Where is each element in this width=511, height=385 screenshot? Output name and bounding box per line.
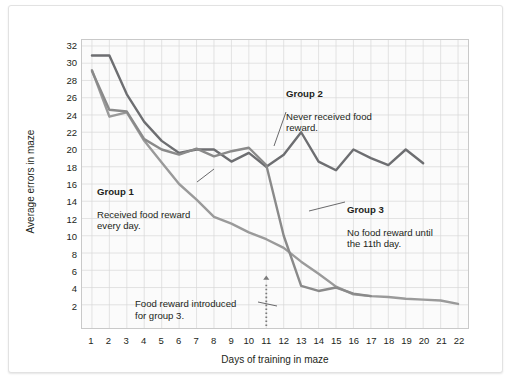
annotation-group-3-body: No food reward until the 11th day. xyxy=(347,227,433,250)
annotation-group-2-body: Never received food reward. xyxy=(286,111,372,134)
y-tick-24: 24 xyxy=(55,110,77,119)
y-axis-tick-labels: 2468101214161820222426283032 xyxy=(49,39,77,329)
y-axis-title: Average errors in maze xyxy=(25,82,36,282)
annotation-group-3-heading: Group 3 xyxy=(347,204,465,216)
x-axis-tick-labels: 12345678910111213141516171819202122 xyxy=(81,335,469,349)
y-tick-6: 6 xyxy=(55,266,77,275)
annotation-group-1-body: Received food reward every day. xyxy=(97,209,190,232)
y-tick-32: 32 xyxy=(55,41,77,50)
x-tick-22: 22 xyxy=(449,335,469,346)
y-tick-18: 18 xyxy=(55,162,77,171)
figure-root: Average errors in maze 24681012141618202… xyxy=(0,0,511,385)
y-tick-14: 14 xyxy=(55,197,77,206)
annotation-group-1-heading: Group 1 xyxy=(97,186,217,198)
x-axis-title: Days of training in maze xyxy=(81,354,469,365)
y-tick-2: 2 xyxy=(55,301,77,310)
y-tick-22: 22 xyxy=(55,127,77,136)
annotation-group-2: Group 2 Never received food reward. xyxy=(286,76,406,134)
y-tick-10: 10 xyxy=(55,232,77,241)
annotation-group-2-heading: Group 2 xyxy=(286,88,406,100)
annotation-group-1: Group 1 Received food reward every day. xyxy=(97,174,217,232)
food-reward-marker-arrowhead xyxy=(263,275,269,279)
y-tick-12: 12 xyxy=(55,214,77,223)
y-tick-30: 30 xyxy=(55,58,77,67)
annotation-food-reward-note: Food reward introduced for group 3. xyxy=(135,298,265,321)
figure-card: Average errors in maze 24681012141618202… xyxy=(8,5,503,373)
y-tick-4: 4 xyxy=(55,284,77,293)
y-tick-28: 28 xyxy=(55,75,77,84)
y-tick-16: 16 xyxy=(55,180,77,189)
annotation-group-3: Group 3 No food reward until the 11th da… xyxy=(347,192,465,250)
y-tick-26: 26 xyxy=(55,93,77,102)
y-tick-20: 20 xyxy=(55,145,77,154)
y-tick-8: 8 xyxy=(55,249,77,258)
